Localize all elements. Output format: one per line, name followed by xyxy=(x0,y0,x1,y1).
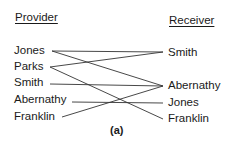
line-smith-abernathy xyxy=(50,84,163,86)
line-abernathy-jones xyxy=(72,102,163,103)
line-jones-smith xyxy=(52,51,163,52)
line-jones-abernathy xyxy=(52,51,163,86)
line-parks-franklin xyxy=(50,67,163,119)
line-parks-smith xyxy=(50,52,163,67)
figure-caption: (a) xyxy=(110,124,123,136)
